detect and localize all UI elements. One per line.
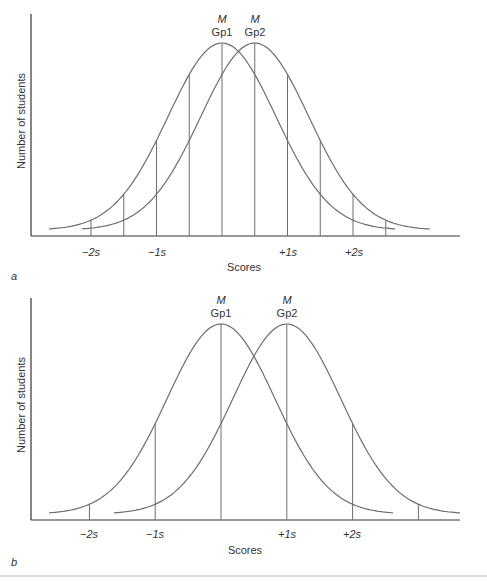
gp2-label: Gp2 [277,307,298,319]
panel-b: M Gp1 M Gp2 Number of students −2s −1s +… [11,294,460,568]
tick-plus-1s: +1s [279,246,298,258]
gp1-mean-symbol: M [217,13,227,25]
x-axis-label: Scores [228,544,263,556]
tick-minus-1s: −1s [148,246,167,258]
tick-plus-1s: +1s [278,528,297,540]
figure: M Gp1 M Gp2 Number of students −2s −1s +… [0,0,487,581]
gp2-label: Gp2 [245,26,266,38]
tick-plus-2s: +2s [345,246,364,258]
tick-plus-2s: +2s [343,528,362,540]
gp2-mean-symbol: M [282,294,292,306]
gp2-curve [82,43,430,229]
sd-lines [89,324,418,520]
panel-a: M Gp1 M Gp2 Number of students −2s −1s +… [11,13,460,282]
gp1-label: Gp1 [211,307,232,319]
panel-label-a: a [11,270,17,282]
gp1-label: Gp1 [212,26,233,38]
tick-minus-2s: −2s [82,246,101,258]
gp2-mean-symbol: M [250,13,260,25]
gp1-mean-symbol: M [216,294,226,306]
y-axis-label: Number of students [15,73,27,169]
x-axis-label: Scores [227,261,262,273]
tick-minus-2s: −2s [80,528,99,540]
panel-label-b: b [11,556,17,568]
sd-lines [91,43,386,236]
y-axis-label: Number of students [15,357,27,453]
tick-minus-1s: −1s [146,528,165,540]
